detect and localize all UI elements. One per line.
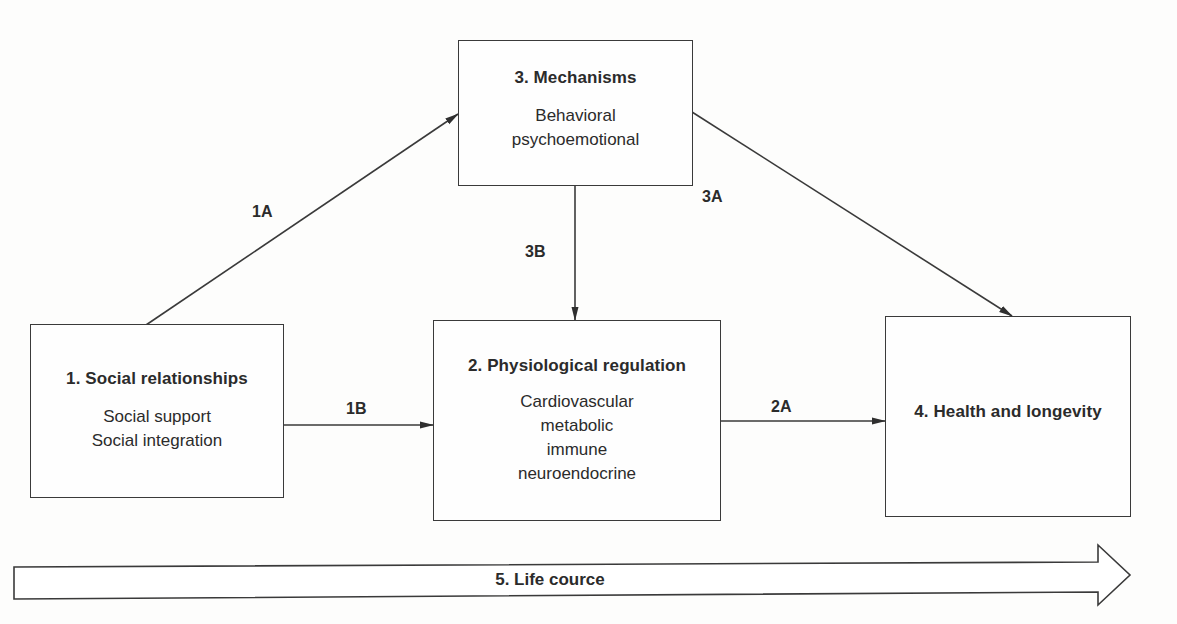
node-title: 2. Physiological regulation [468, 356, 686, 376]
node-health-longevity: 4. Health and longevity [885, 316, 1131, 517]
edge-label-1a: 1A [252, 203, 272, 221]
node-title: 1. Social relationships [66, 369, 248, 389]
node-line: Social integration [92, 429, 222, 453]
life-course-label: 5. Life cource [0, 570, 1100, 590]
node-mechanisms: 3. Mechanisms Behavioral psychoemotional [458, 40, 693, 186]
node-title: 4. Health and longevity [914, 402, 1101, 422]
edge-label-1b: 1B [346, 400, 366, 418]
node-line: Behavioral [535, 104, 615, 128]
node-line: psychoemotional [512, 128, 640, 152]
node-line: metabolic [541, 414, 614, 438]
node-line: immune [547, 438, 607, 462]
node-line: Social support [103, 405, 211, 429]
edge-label-3a: 3A [702, 188, 722, 206]
node-social-relationships: 1. Social relationships Social support S… [30, 324, 284, 498]
node-physiological-regulation: 2. Physiological regulation Cardiovascul… [433, 320, 721, 521]
edge-label-2a: 2A [771, 398, 791, 416]
edge-3a-arrow [692, 112, 1012, 316]
node-title: 3. Mechanisms [514, 68, 636, 88]
node-line: neuroendocrine [518, 462, 636, 486]
edge-1a-arrow [146, 114, 458, 325]
node-line: Cardiovascular [520, 390, 633, 414]
edge-label-3b: 3B [525, 243, 545, 261]
